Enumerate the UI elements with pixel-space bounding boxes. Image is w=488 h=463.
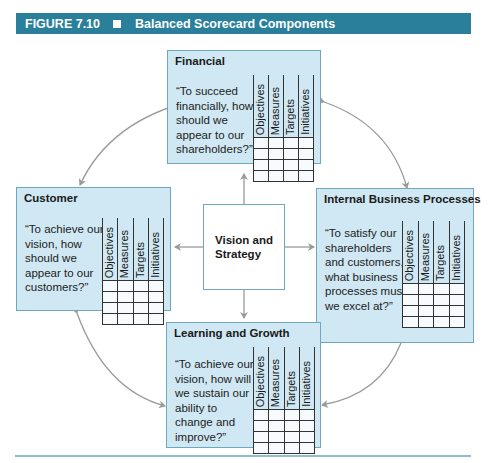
perspective-learning-and-growth: Learning and Growth “To achieve our visi… xyxy=(166,322,321,448)
perspective-financial: Financial “To succeed financially, how s… xyxy=(167,50,321,164)
perspective-question: “To satisfy our shareholders and custome… xyxy=(325,226,406,313)
perspective-title: Financial xyxy=(175,55,225,67)
vision-and-strategy-box: Vision andStrategy xyxy=(203,204,285,290)
vision-label: Vision andStrategy xyxy=(215,233,273,261)
scorecard-grid: ObjectivesMeasures TargetsInitiatives xyxy=(402,221,465,328)
footer-rule xyxy=(15,455,471,457)
perspective-question: “To succeed financially, how should we a… xyxy=(176,84,253,157)
perspective-title: Internal Business Processes xyxy=(324,193,481,205)
scorecard-grid: ObjectivesMeasures TargetsInitiatives xyxy=(253,347,315,454)
perspective-title: Learning and Growth xyxy=(174,327,290,339)
scorecard-grid: ObjectivesMeasures TargetsInitiatives xyxy=(253,75,314,182)
perspective-internal-business-processes: Internal Business Processes “To satisfy … xyxy=(316,188,474,343)
perspective-question: “To achieve our vision, how should we ap… xyxy=(25,222,104,295)
perspective-question: “To achieve our vision, how will we sust… xyxy=(175,357,254,444)
scorecard-grid: ObjectivesMeasures TargetsInitiatives xyxy=(102,218,164,325)
perspective-title: Customer xyxy=(24,192,78,204)
perspective-customer: Customer “To achieve our vision, how sho… xyxy=(16,187,171,311)
